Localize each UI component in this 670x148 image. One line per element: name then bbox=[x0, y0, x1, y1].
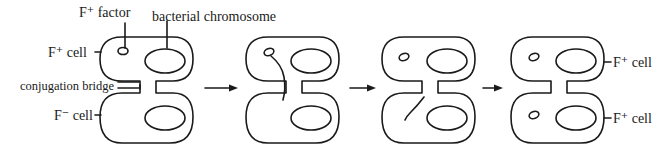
arrow-1 bbox=[205, 85, 238, 92]
bacterial-chromosome-bottom bbox=[145, 106, 185, 130]
label-bacterial-chromosome: bacterial chromosome bbox=[152, 9, 276, 24]
label-f-plus-cell-bottom: F⁺ cell bbox=[613, 111, 652, 126]
arrow-2 bbox=[350, 85, 376, 92]
f-factor-plasmid-bottom bbox=[528, 110, 540, 120]
stage-4 bbox=[511, 37, 604, 143]
bacterial-chromosome-top bbox=[291, 49, 331, 73]
f-factor-plasmid bbox=[118, 48, 128, 55]
f-factor-plasmid bbox=[263, 47, 275, 57]
arrow-3 bbox=[483, 85, 503, 92]
f-factor-plasmid bbox=[398, 52, 410, 62]
bacterial-chromosome-top bbox=[427, 49, 467, 73]
bacterial-chromosome-top bbox=[556, 49, 596, 73]
bacterial-chromosome-bottom bbox=[427, 106, 467, 130]
label-conjugation-bridge: conjugation bridge bbox=[20, 79, 115, 93]
conjugation-diagram: F⁺ factor bacterial chromosome F⁺ cell c… bbox=[0, 0, 670, 148]
f-factor-plasmid-top bbox=[528, 52, 540, 62]
label-f-plus-factor: F⁺ factor bbox=[79, 5, 131, 20]
label-f-plus-cell: F⁺ cell bbox=[48, 45, 87, 60]
bacterial-chromosome-bottom bbox=[291, 106, 331, 130]
label-f-plus-cell-top: F⁺ cell bbox=[613, 55, 652, 70]
stage-2 bbox=[246, 37, 339, 143]
transferred-strand bbox=[405, 97, 424, 120]
bacterial-chromosome-bottom bbox=[556, 106, 596, 130]
bacterial-chromosome-top bbox=[145, 49, 185, 73]
label-f-minus-cell: F⁻ cell bbox=[54, 108, 93, 123]
stage-3 bbox=[382, 37, 475, 143]
